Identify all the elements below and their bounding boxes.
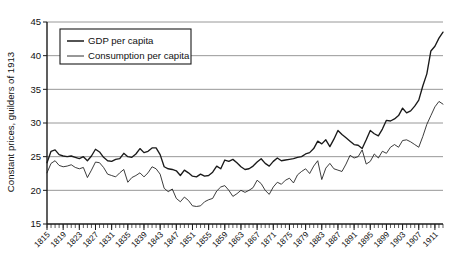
y-tick-label: 45: [30, 16, 41, 27]
x-tick-label: 1835: [113, 230, 133, 250]
x-tick-label: 1839: [130, 230, 150, 250]
legend-label-gdp: GDP per capita: [88, 35, 154, 46]
x-tick-label: 1847: [162, 230, 182, 250]
y-tick-label: 40: [30, 50, 41, 61]
x-tick-label: 1831: [97, 230, 117, 250]
y-axis-title: Constant prices, guilders of 1913: [5, 52, 16, 192]
x-tick-label: 1827: [81, 230, 101, 250]
x-tick-label: 1879: [291, 230, 311, 250]
x-tick-label: 1855: [194, 230, 214, 250]
line-chart: 15202530354045 1815181918231827183118351…: [0, 0, 456, 276]
y-axis-title-group: Constant prices, guilders of 1913: [5, 52, 16, 192]
x-tick-label: 1899: [372, 230, 392, 250]
x-tick-label: 1819: [49, 230, 69, 250]
y-tick-label: 25: [30, 151, 41, 162]
x-tick-label: 1843: [146, 230, 166, 250]
x-tick-label: 1875: [275, 230, 295, 250]
y-tick-label: 35: [30, 84, 41, 95]
x-axis: 1815181918231827183118351839184318471851…: [33, 224, 443, 249]
chart-legend: GDP per capitaConsumption per capita: [60, 29, 191, 64]
y-tick-label: 30: [30, 117, 41, 128]
x-tick-label: 1887: [324, 230, 344, 250]
chart-container: 15202530354045 1815181918231827183118351…: [0, 0, 456, 276]
x-tick-label: 1863: [227, 230, 247, 250]
x-tick-label: 1907: [404, 230, 424, 250]
x-tick-label: 1883: [307, 230, 327, 250]
x-tick-label: 1895: [356, 230, 376, 250]
x-tick-label: 1871: [259, 230, 279, 250]
legend-label-consumption: Consumption per capita: [88, 50, 190, 61]
x-tick-label: 1815: [33, 230, 53, 250]
x-tick-label: 1911: [421, 230, 440, 249]
y-axis: 15202530354045: [30, 16, 47, 229]
x-tick-label: 1823: [65, 230, 85, 250]
x-tick-label: 1859: [210, 230, 230, 250]
x-tick-label: 1903: [388, 230, 408, 250]
x-tick-label: 1851: [178, 230, 198, 250]
x-tick-label: 1891: [340, 230, 360, 250]
y-tick-label: 20: [30, 185, 41, 196]
y-tick-label: 15: [30, 218, 41, 229]
x-tick-label: 1867: [243, 230, 263, 250]
